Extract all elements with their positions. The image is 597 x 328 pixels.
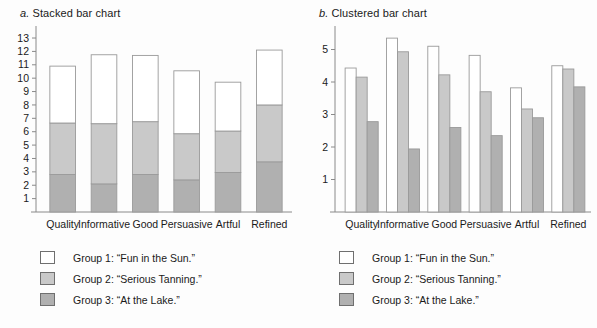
clustered-bar bbox=[563, 69, 574, 212]
legend-swatch-icon bbox=[339, 272, 354, 285]
svg-text:Good: Good bbox=[431, 218, 457, 230]
stacked-bar-segment bbox=[257, 105, 283, 162]
stacked-bar-segment bbox=[133, 55, 159, 121]
clustered-bar bbox=[397, 52, 408, 212]
clustered-bar bbox=[356, 77, 367, 212]
svg-text:4: 4 bbox=[322, 76, 328, 88]
legend-item-label: Group 1: “Fun in the Sun.” bbox=[372, 252, 494, 264]
stacked-bar-segment bbox=[215, 82, 241, 131]
legend-item-label: Group 3: “At the Lake.” bbox=[372, 294, 479, 306]
panel-stacked-bar-chart: a. Stacked bar chart 12345678910111213Qu… bbox=[0, 0, 298, 328]
legend-clustered: Group 1: “Fun in the Sun.”Group 2: “Seri… bbox=[339, 247, 501, 310]
svg-text:5: 5 bbox=[23, 139, 29, 151]
stacked-bar-segment bbox=[257, 50, 283, 105]
stacked-bar-segment bbox=[50, 123, 76, 175]
clustered-bar bbox=[367, 122, 378, 212]
clustered-bar bbox=[386, 38, 397, 212]
stacked-bar-segment bbox=[174, 180, 200, 212]
svg-text:4: 4 bbox=[23, 152, 29, 164]
panel-clustered-bar-chart: b. Clustered bar chart 12345QualityInfor… bbox=[299, 0, 597, 328]
clustered-bar bbox=[409, 149, 420, 212]
legend-swatch-icon bbox=[40, 272, 55, 285]
svg-text:Quality: Quality bbox=[345, 218, 378, 230]
legend-item: Group 1: “Fun in the Sun.” bbox=[339, 247, 501, 268]
clustered-bar bbox=[469, 55, 480, 212]
svg-text:7: 7 bbox=[23, 112, 29, 124]
stacked-bar-segment bbox=[133, 122, 159, 175]
svg-text:Informative: Informative bbox=[78, 218, 130, 230]
stacked-bar-segment bbox=[174, 71, 200, 134]
svg-text:3: 3 bbox=[322, 108, 328, 120]
legend-item: Group 2: “Serious Tanning.” bbox=[40, 268, 202, 289]
svg-text:6: 6 bbox=[23, 125, 29, 137]
stacked-bar-segment bbox=[174, 134, 200, 180]
legend-item-label: Group 2: “Serious Tanning.” bbox=[73, 273, 202, 285]
svg-text:9: 9 bbox=[23, 85, 29, 97]
stacked-bar-segment bbox=[215, 173, 241, 212]
clustered-bar bbox=[491, 136, 502, 212]
legend-item: Group 3: “At the Lake.” bbox=[339, 289, 501, 310]
legend-swatch-icon bbox=[339, 251, 354, 264]
clustered-bar bbox=[428, 46, 439, 212]
legend-stacked: Group 1: “Fun in the Sun.”Group 2: “Seri… bbox=[40, 247, 202, 310]
svg-text:2: 2 bbox=[23, 179, 29, 191]
legend-swatch-icon bbox=[40, 293, 55, 306]
stacked-bar-segment bbox=[257, 162, 283, 212]
clustered-bar bbox=[345, 68, 356, 212]
stacked-bar-segment bbox=[215, 131, 241, 172]
svg-text:Good: Good bbox=[132, 218, 158, 230]
svg-text:13: 13 bbox=[17, 32, 29, 44]
svg-text:1: 1 bbox=[322, 173, 328, 185]
stacked-bar-chart-svg: 12345678910111213QualityInformativeGoodP… bbox=[0, 0, 298, 240]
legend-item-label: Group 2: “Serious Tanning.” bbox=[372, 273, 501, 285]
svg-text:1: 1 bbox=[23, 192, 29, 204]
stacked-bar-segment bbox=[50, 66, 76, 123]
stacked-bar-segment bbox=[91, 124, 117, 184]
stacked-bar-segment bbox=[50, 175, 76, 212]
clustered-bar bbox=[510, 88, 521, 212]
stacked-bar-segment bbox=[133, 175, 159, 212]
svg-text:Artful: Artful bbox=[216, 218, 241, 230]
clustered-bar bbox=[480, 92, 491, 212]
legend-swatch-icon bbox=[40, 251, 55, 264]
svg-text:Refined: Refined bbox=[550, 218, 586, 230]
clustered-bar bbox=[439, 75, 450, 212]
legend-item: Group 3: “At the Lake.” bbox=[40, 289, 202, 310]
clustered-bar bbox=[450, 128, 461, 213]
legend-item-label: Group 3: “At the Lake.” bbox=[73, 294, 180, 306]
legend-item: Group 1: “Fun in the Sun.” bbox=[40, 247, 202, 268]
svg-text:10: 10 bbox=[17, 72, 29, 84]
clustered-bar bbox=[521, 109, 532, 212]
legend-item: Group 2: “Serious Tanning.” bbox=[339, 268, 501, 289]
svg-text:Persuasive: Persuasive bbox=[161, 218, 213, 230]
clustered-bar bbox=[574, 87, 585, 212]
svg-text:Refined: Refined bbox=[251, 218, 287, 230]
svg-text:Informative: Informative bbox=[377, 218, 429, 230]
svg-text:3: 3 bbox=[23, 165, 29, 177]
clustered-bar-chart-svg: 12345QualityInformativeGoodPersuasiveArt… bbox=[299, 0, 597, 240]
clustered-bar bbox=[552, 66, 563, 212]
clustered-bar bbox=[533, 118, 544, 212]
svg-text:5: 5 bbox=[322, 43, 328, 55]
svg-text:12: 12 bbox=[17, 45, 29, 57]
legend-swatch-icon bbox=[339, 293, 354, 306]
svg-text:8: 8 bbox=[23, 99, 29, 111]
legend-item-label: Group 1: “Fun in the Sun.” bbox=[73, 252, 195, 264]
svg-text:Persuasive: Persuasive bbox=[460, 218, 512, 230]
stacked-bar-segment bbox=[91, 184, 117, 212]
svg-text:2: 2 bbox=[322, 141, 328, 153]
svg-text:11: 11 bbox=[18, 58, 29, 70]
svg-text:Artful: Artful bbox=[515, 218, 540, 230]
stacked-bar-segment bbox=[91, 55, 117, 124]
svg-text:Quality: Quality bbox=[46, 218, 79, 230]
